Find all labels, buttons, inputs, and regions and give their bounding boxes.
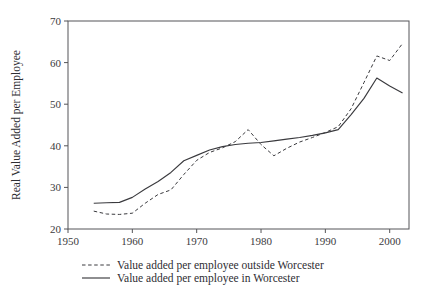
y-tick-label: 20: [50, 223, 62, 235]
x-tick-label: 1980: [250, 235, 273, 247]
chart-figure: 203040506070195019601970198019902000Real…: [0, 0, 429, 299]
y-tick-label: 40: [50, 140, 62, 152]
legend-label-1: Value added per employee outside Worcest…: [117, 259, 324, 272]
x-tick-label: 1960: [121, 235, 144, 247]
y-tick-label: 30: [50, 181, 62, 193]
x-tick-label: 2000: [379, 235, 402, 247]
y-axis-title: Real Value Added per Employee: [10, 50, 23, 200]
legend-label-2: Value added per employee in Worcester: [117, 272, 300, 285]
x-tick-label: 1970: [186, 235, 209, 247]
series-line-1: [94, 43, 403, 214]
y-tick-label: 50: [50, 98, 62, 110]
x-tick-label: 1950: [57, 235, 80, 247]
series-line-2: [94, 78, 403, 203]
plot-frame: [68, 21, 409, 229]
x-tick-label: 1990: [314, 235, 337, 247]
y-tick-label: 60: [50, 57, 62, 69]
line-chart: 203040506070195019601970198019902000Real…: [0, 0, 429, 299]
y-tick-label: 70: [50, 15, 62, 27]
